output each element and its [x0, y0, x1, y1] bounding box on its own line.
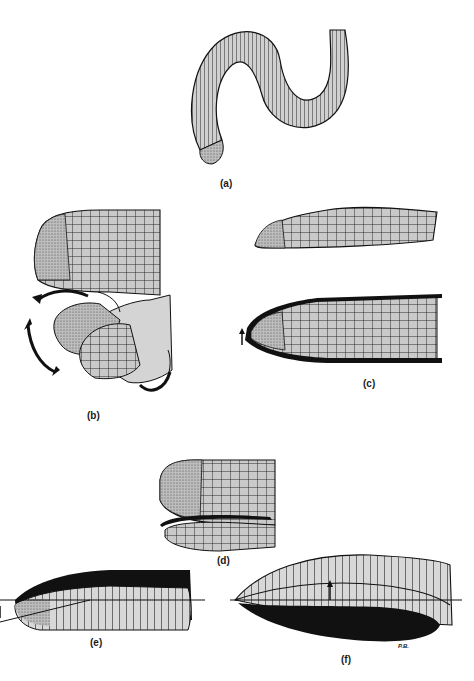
panel-f: P.B. (f): [230, 545, 474, 681]
panel-label-e: (e): [90, 637, 102, 648]
panel-label-b: (b): [87, 410, 100, 421]
up-arrow-icon: [239, 328, 245, 345]
panel-a: (a): [0, 0, 474, 200]
artist-signature: P.B.: [398, 643, 409, 649]
rounded-head-illustration: [0, 200, 237, 420]
body-section-dorsal-shaded: [0, 560, 240, 681]
panel-label-f: (f): [341, 654, 351, 665]
panel-label-a: (a): [220, 178, 232, 189]
body-section-ventral-shaded: [230, 545, 474, 681]
annulated-body-illustration: [0, 0, 474, 200]
spade-head-illustration: [237, 200, 474, 400]
panel-c: (c): [237, 200, 474, 400]
panel-b: (b): [0, 200, 237, 420]
panel-e: (e): [0, 560, 240, 681]
panel-label-c: (c): [363, 378, 375, 389]
